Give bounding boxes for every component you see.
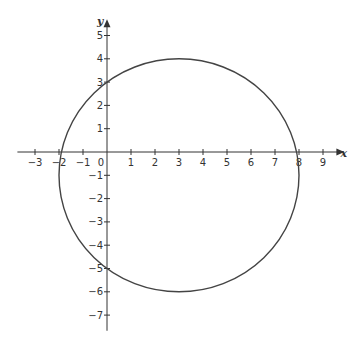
- y-tick-label: −4: [88, 240, 103, 251]
- x-tick-label: −3: [28, 157, 43, 168]
- axes: xy: [17, 15, 347, 331]
- tick-labels: −3−2−1012345678954321−1−2−3−4−5−6−7: [28, 30, 327, 321]
- x-tick-label: 2: [152, 157, 158, 168]
- ticks: [35, 36, 323, 316]
- y-tick-label: −7: [88, 310, 103, 321]
- y-axis-arrow-icon: [104, 19, 111, 27]
- x-tick-label: 0: [98, 157, 104, 168]
- y-tick-label: −5: [88, 263, 103, 274]
- y-tick-label: 5: [97, 30, 103, 41]
- x-tick-label: 3: [176, 157, 182, 168]
- y-tick-label: −1: [88, 170, 103, 181]
- circle-graph: xy −3−2−1012345678954321−1−2−3−4−5−6−7: [0, 0, 353, 341]
- y-tick-label: 2: [97, 100, 103, 111]
- x-tick-label: 1: [128, 157, 134, 168]
- x-tick-label: 5: [224, 157, 230, 168]
- x-tick-label: 6: [248, 157, 254, 168]
- x-tick-label: −1: [76, 157, 91, 168]
- y-tick-label: 1: [97, 123, 103, 134]
- y-tick-label: −2: [88, 193, 103, 204]
- y-tick-label: 4: [97, 53, 103, 64]
- x-tick-label: 4: [200, 157, 206, 168]
- y-axis-label: y: [96, 15, 105, 28]
- x-tick-label: 9: [320, 157, 326, 168]
- y-tick-label: −3: [88, 216, 103, 227]
- x-tick-label: 7: [272, 157, 278, 168]
- y-tick-label: −6: [88, 286, 103, 297]
- x-axis-label: x: [339, 147, 347, 160]
